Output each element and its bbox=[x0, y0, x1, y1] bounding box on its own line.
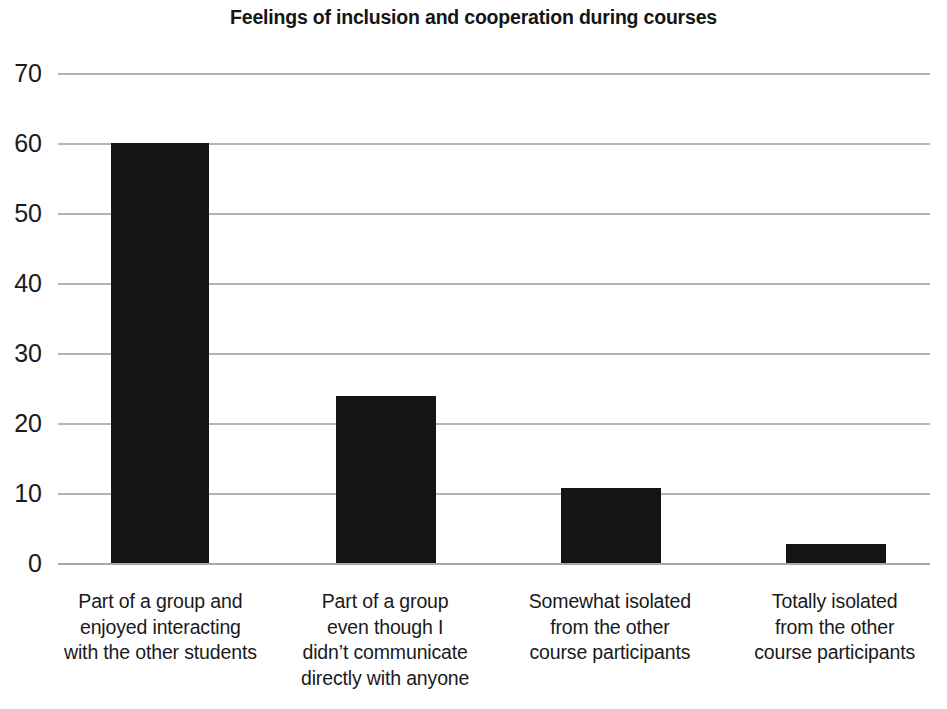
x-axis-label-2-line-4: directly with anyone bbox=[273, 666, 498, 692]
x-axis-label-3-line-3: course participants bbox=[498, 640, 723, 666]
x-axis-label-1-line-2: enjoyed interacting bbox=[48, 615, 273, 641]
chart-title: Feelings of inclusion and cooperation du… bbox=[0, 6, 947, 29]
bar-category-4 bbox=[786, 544, 886, 565]
x-axis-label-4-line-3: course participants bbox=[722, 640, 947, 666]
x-axis-label-4-line-1: Totally isolated bbox=[722, 589, 947, 615]
x-axis-label-1-line-3: with the other students bbox=[48, 640, 273, 666]
y-axis-tick-50: 50 bbox=[0, 201, 42, 226]
x-axis-label-4: Totally isolated from the other course p… bbox=[722, 589, 947, 691]
x-axis-label-3-line-2: from the other bbox=[498, 615, 723, 641]
axis-baseline bbox=[58, 563, 930, 565]
bar-category-2 bbox=[336, 396, 436, 565]
x-axis-labels: Part of a group and enjoyed interacting … bbox=[48, 589, 947, 691]
y-axis-tick-40: 40 bbox=[0, 271, 42, 296]
x-axis-label-3-line-1: Somewhat isolated bbox=[498, 589, 723, 615]
y-axis-tick-0: 0 bbox=[0, 551, 42, 576]
y-axis-tick-70: 70 bbox=[0, 61, 42, 86]
bar-category-1 bbox=[111, 143, 209, 565]
gridline-70 bbox=[58, 73, 930, 75]
y-axis-tick-10: 10 bbox=[0, 481, 42, 506]
bar-category-3 bbox=[561, 488, 661, 565]
x-axis-label-2-line-1: Part of a group bbox=[273, 589, 498, 615]
x-axis-label-1: Part of a group and enjoyed interacting … bbox=[48, 589, 273, 691]
x-axis-label-2: Part of a group even though I didn’t com… bbox=[273, 589, 498, 691]
y-axis-tick-60: 60 bbox=[0, 131, 42, 156]
x-axis-label-2-line-3: didn’t communicate bbox=[273, 640, 498, 666]
bar-chart: Feelings of inclusion and cooperation du… bbox=[0, 0, 947, 709]
x-axis-label-2-line-2: even though I bbox=[273, 615, 498, 641]
y-axis-tick-20: 20 bbox=[0, 411, 42, 436]
y-axis-tick-30: 30 bbox=[0, 341, 42, 366]
x-axis-label-1-line-1: Part of a group and bbox=[48, 589, 273, 615]
x-axis-label-4-line-2: from the other bbox=[722, 615, 947, 641]
plot-area bbox=[58, 73, 930, 565]
x-axis-label-3: Somewhat isolated from the other course … bbox=[498, 589, 723, 691]
